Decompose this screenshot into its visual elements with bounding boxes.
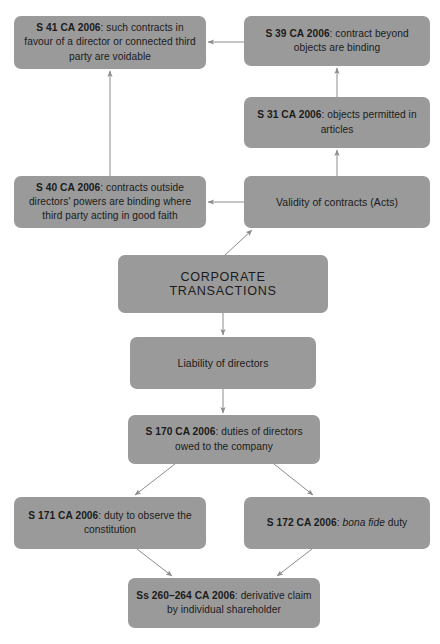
edge-corporate-to-validity bbox=[225, 230, 252, 255]
node-s39[interactable]: S 39 CA 2006: contract beyond objects ar… bbox=[244, 16, 430, 66]
node-liability-of-directors-label: Liability of directors bbox=[138, 356, 308, 370]
node-validity-of-contracts-label: Validity of contracts (Acts) bbox=[252, 195, 422, 209]
flowchart-canvas: S 41 CA 2006: such contracts in favour o… bbox=[0, 0, 440, 644]
edge-s170-to-s171 bbox=[135, 464, 175, 495]
edge-s171-to-ss260 bbox=[137, 549, 172, 576]
node-ss260-264[interactable]: Ss 260–264 CA 2006: derivative claim by … bbox=[128, 578, 320, 628]
node-s172[interactable]: S 172 CA 2006: bona fide duty bbox=[244, 497, 430, 549]
edge-s170-to-s172 bbox=[274, 464, 313, 495]
node-s31-label: S 31 CA 2006: objects permitted in artic… bbox=[252, 108, 422, 136]
node-corporate-transactions-label: CORPORATE TRANSACTIONS bbox=[126, 270, 320, 298]
node-corporate-transactions[interactable]: CORPORATE TRANSACTIONS bbox=[118, 255, 328, 313]
node-s31[interactable]: S 31 CA 2006: objects permitted in artic… bbox=[244, 97, 430, 148]
node-s172-label: S 172 CA 2006: bona fide duty bbox=[252, 516, 422, 530]
node-s39-label: S 39 CA 2006: contract beyond objects ar… bbox=[252, 27, 422, 55]
node-s171-label: S 171 CA 2006: duty to observe the const… bbox=[22, 509, 198, 537]
node-s41-label: S 41 CA 2006: such contracts in favour o… bbox=[22, 21, 198, 64]
edge-s172-to-ss260 bbox=[277, 549, 312, 576]
node-s40[interactable]: S 40 CA 2006: contracts outside director… bbox=[14, 176, 206, 228]
node-liability-of-directors[interactable]: Liability of directors bbox=[130, 337, 316, 389]
node-s170[interactable]: S 170 CA 2006: duties of directors owed … bbox=[128, 415, 320, 464]
node-ss260-264-label: Ss 260–264 CA 2006: derivative claim by … bbox=[136, 589, 312, 617]
node-s171[interactable]: S 171 CA 2006: duty to observe the const… bbox=[14, 497, 206, 549]
node-validity-of-contracts[interactable]: Validity of contracts (Acts) bbox=[244, 176, 430, 228]
node-s170-label: S 170 CA 2006: duties of directors owed … bbox=[136, 425, 312, 453]
node-s40-label: S 40 CA 2006: contracts outside director… bbox=[22, 181, 198, 224]
node-s41[interactable]: S 41 CA 2006: such contracts in favour o… bbox=[14, 16, 206, 69]
